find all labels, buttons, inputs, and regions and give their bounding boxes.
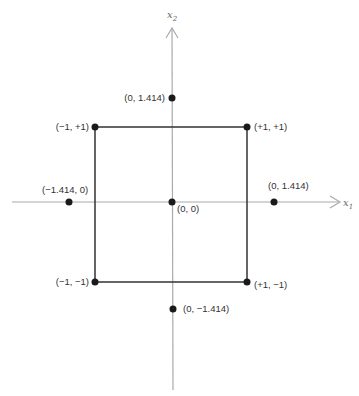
label-corner-tr: (+1, +1): [254, 121, 287, 132]
point-center: [169, 199, 176, 206]
ccd-diagram: x1 x2 (−1, +1) (+1, +1) (−1, −1) (+1, −1…: [0, 0, 359, 396]
label-axial-right: (0, 1.414): [268, 180, 309, 191]
label-corner-br: (+1, −1): [254, 279, 287, 290]
x2-axis-label: x2: [167, 9, 178, 23]
label-axial-left: (−1.414, 0): [42, 184, 88, 195]
label-center: (0, 0): [177, 203, 199, 214]
x2-axis: [172, 28, 173, 390]
point-axial-bottom: [170, 306, 177, 313]
label-corner-bl: (−1, −1): [56, 276, 89, 287]
point-axial-right: [271, 199, 278, 206]
label-corner-tl: (−1, +1): [56, 121, 89, 132]
x1-axis-label: x1: [343, 197, 353, 211]
point-axial-left: [66, 199, 73, 206]
point-axial-top: [169, 95, 176, 102]
label-axial-bottom: (0, −1.414): [183, 303, 229, 314]
point-corner-bl: [92, 279, 99, 286]
label-axial-top: (0, 1.414): [124, 92, 165, 103]
point-corner-br: [244, 279, 251, 286]
point-corner-tr: [244, 124, 251, 131]
point-corner-tl: [92, 124, 99, 131]
